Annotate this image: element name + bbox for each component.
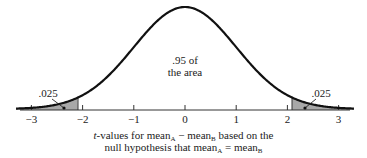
right-tail-dot — [303, 106, 306, 109]
center-label-line2: the area — [168, 66, 203, 78]
left-tail-dot — [62, 106, 65, 109]
right-tail-label: .025 — [311, 87, 331, 99]
center-label-line1: .95 of — [172, 54, 198, 66]
x-tick-label: 2 — [285, 113, 291, 125]
x-tick-label: 1 — [233, 113, 239, 125]
x-axis-label-line2: null hypothesis that meanA = meanB — [0, 141, 367, 157]
x-tick-label: 3 — [336, 113, 342, 125]
x-tick-label: −2 — [77, 113, 89, 125]
x-tick-label: −1 — [128, 113, 140, 125]
x-tick-label: 0 — [182, 113, 188, 125]
left-tail-label: .025 — [38, 87, 58, 99]
x-tick-label: −3 — [26, 113, 38, 125]
t-distribution-chart: −3−2−10123 .95 of the area .025 .025 — [0, 0, 367, 130]
